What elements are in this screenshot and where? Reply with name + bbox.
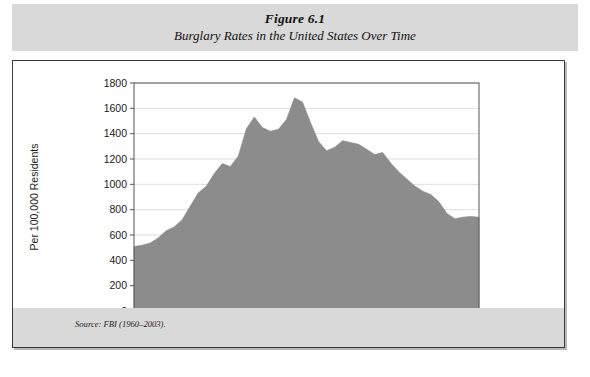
- figure-number: Figure 6.1: [265, 11, 326, 27]
- source-band: Source: FBI (1960–2003).: [13, 308, 564, 347]
- y-axis-tick-labels: 020040060080010001200140016001800: [104, 77, 134, 310]
- y-tick-label: 1600: [104, 102, 128, 114]
- y-axis-title: Per 100,000 Residents: [28, 144, 40, 251]
- figure-frame: 020040060080010001200140016001800 196019…: [12, 60, 565, 348]
- y-axis-title-text: Per 100,000 Residents: [28, 144, 40, 251]
- y-tick-label: 200: [109, 279, 127, 291]
- y-tick-label: 1000: [104, 178, 128, 190]
- y-tick-label: 1800: [104, 77, 128, 89]
- y-tick-label: 800: [109, 203, 127, 215]
- figure-caption: Burglary Rates in the United States Over…: [174, 28, 416, 44]
- figure-title-band: Figure 6.1 Burglary Rates in the United …: [12, 4, 578, 51]
- y-tick-label: 1400: [104, 127, 128, 139]
- y-tick-label: 400: [109, 254, 127, 266]
- y-tick-label: 600: [109, 229, 127, 241]
- burglary-rate-area-chart: 020040060080010001200140016001800 196019…: [13, 61, 566, 310]
- burglary-rate-area: [134, 98, 479, 310]
- chart-plot-region: 020040060080010001200140016001800 196019…: [13, 61, 566, 310]
- source-note: Source: FBI (1960–2003).: [75, 319, 166, 329]
- area-series: [134, 98, 479, 310]
- y-tick-label: 1200: [104, 153, 128, 165]
